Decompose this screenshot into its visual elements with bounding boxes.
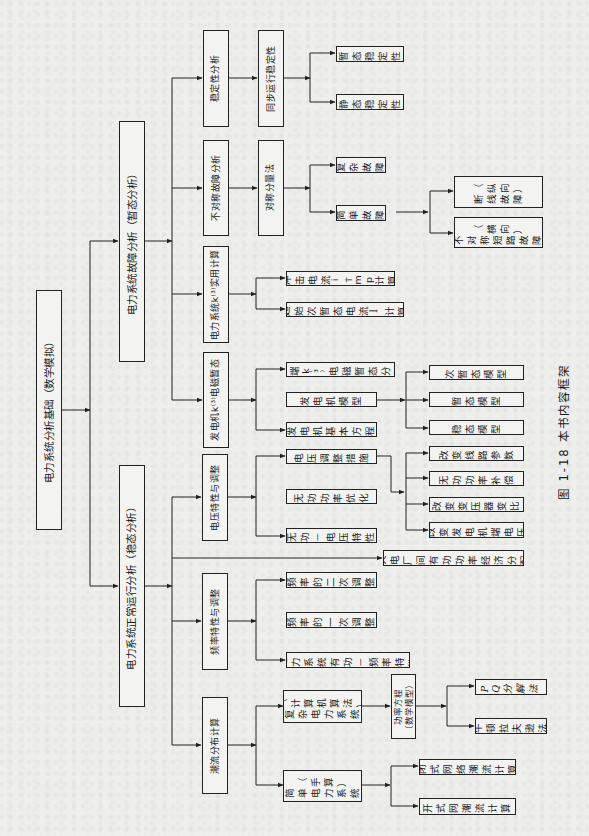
flow-equation-label: 功率方程（数学模型）	[393, 680, 414, 734]
complex-fault-box: 复杂故障	[336, 157, 386, 173]
simple-system-label-2: 简单电力系统	[284, 786, 362, 797]
active-frequency-label: 电力系统有功－频率特性	[286, 655, 410, 666]
change-line-params-label: 改变线路参数	[438, 448, 516, 459]
newton-method-label: 牛顿拉夫逊法	[475, 721, 547, 732]
asym-fault-analysis-box: 不对称故障分析	[203, 140, 229, 236]
practical-calc-box: 电力系统k⁽³⁾实用计算	[203, 246, 229, 343]
generator-equation-label: 发电机基本方程	[286, 424, 377, 435]
secondary-regulation-label: 频率的二次调整	[286, 575, 377, 586]
short-circuit-fault-label-1: （横向）	[473, 222, 525, 233]
root-box: 电力系统分析基础（数学模拟）	[36, 290, 62, 530]
pq-method-box: PQ分解法	[475, 679, 547, 695]
voltage-regulation-label: 电压特性与调整	[209, 464, 220, 531]
sync-stability-box: 同步运行稳定性	[258, 30, 284, 127]
asym-fault-analysis-label: 不对称故障分析	[210, 155, 221, 222]
voltage-regulation-box: 电压特性与调整	[202, 454, 228, 541]
flow-equation-line-2: （数学模型）	[404, 680, 414, 734]
open-line-fault-box: （纵向） 断线故障	[454, 176, 543, 208]
complex-fault-label: 复杂故障	[336, 160, 386, 171]
voltage-measures-box: 电压调整措施	[286, 449, 377, 464]
em-transient-label: 发电机k⁽³⁾电磁暂态	[210, 359, 221, 441]
impulse-current-label: 冲击电流 i_imp 计算	[286, 273, 395, 284]
flow-equation-box: 功率方程（数学模型）	[391, 674, 416, 739]
transient-stability-label: 暂态稳定性	[338, 49, 403, 60]
power-flow-box: 潮流分布计算	[202, 697, 228, 794]
steady-model-box: 稳态模型	[429, 420, 524, 435]
initial-current-label: 起始次暂态电流 I″ 计算	[286, 304, 404, 315]
frequency-regulation-box: 频率特性与调整	[202, 573, 228, 670]
change-line-params-box: 改变线路参数	[429, 446, 524, 461]
change-generator-voltage-box: 改变发电机端电压	[429, 522, 524, 538]
complex-system-label-1: （计算机算法）	[283, 696, 362, 707]
change-transformer-ratio-box: 改变变压器变比	[429, 497, 524, 512]
initial-current-box: 起始次暂态电流 I″ 计算	[286, 302, 404, 317]
transient-model-label: 暂态模型	[451, 394, 503, 405]
active-frequency-box: 电力系统有功－频率特性	[286, 652, 410, 668]
primary-regulation-label: 频率的一次调整	[286, 615, 377, 626]
static-stability-box: 静态稳定性	[336, 94, 404, 110]
stability-analysis-box: 稳定性分析	[203, 30, 229, 127]
em-transient-box: 发电机k⁽³⁾电磁暂态	[203, 352, 229, 448]
steady-model-label: 稳态模型	[451, 422, 503, 433]
complex-system-box: （计算机算法） 复杂电力系统	[283, 690, 362, 723]
symmetric-component-label: 对称分量法	[265, 164, 276, 212]
steady-analysis-label: 电力系统正常运行分析（稳态分析）	[125, 502, 138, 670]
closed-network-box: 闭式网络潮流计算	[419, 759, 516, 775]
symmetric-component-box: 对称分量法	[258, 140, 284, 236]
reactive-voltage-label: 无功－电压特性	[286, 530, 377, 541]
machine-end-transient-label: 机端 k⁽³⁾ 电磁暂态分析	[286, 364, 395, 375]
transient-analysis-box: 电力系统故障分析（暂态分析）	[119, 121, 145, 362]
change-generator-voltage-label: 改变发电机端电压	[429, 525, 524, 536]
pq-method-label: PQ分解法	[481, 682, 540, 693]
root-label: 电力系统分析基础（数学模拟）	[42, 337, 55, 484]
simple-system-box: （手算） 简单电力系统	[283, 770, 362, 802]
frequency-regulation-label: 频率特性与调整	[209, 588, 220, 655]
subtransient-model-label: 次暂态模型	[444, 367, 509, 378]
secondary-regulation-box: 频率的二次调整	[286, 572, 377, 588]
closed-network-label: 闭式网络潮流计算	[419, 762, 516, 773]
impulse-current-box: 冲击电流 i_imp 计算	[286, 271, 395, 286]
diagram-canvas: 电力系统分析基础（数学模拟） 电力系统故障分析（暂态分析） 电力系统正常运行分析…	[0, 0, 589, 836]
generator-model-label: 发电机模型	[299, 394, 364, 405]
practical-calc-label: 电力系统k⁽³⁾实用计算	[210, 249, 221, 340]
reactive-compensation-label: 无功功率补偿	[438, 473, 516, 484]
simple-fault-box: 简单故障	[336, 205, 386, 221]
reactive-compensation-box: 无功功率补偿	[429, 471, 524, 486]
short-circuit-fault-label-2: 不对称短路故障	[454, 233, 543, 244]
complex-system-label-2: 复杂电力系统	[284, 707, 362, 718]
reactive-voltage-box: 无功－电压特性	[286, 528, 377, 543]
figure-caption: 图 1-18 本书内容框架	[548, 362, 578, 502]
machine-end-transient-box: 机端 k⁽³⁾ 电磁暂态分析	[286, 362, 395, 377]
thermal-dispatch-label: 火电厂间有功功率经济分配	[383, 553, 524, 564]
power-flow-label: 潮流分布计算	[209, 717, 220, 774]
transient-analysis-label: 电力系统故障分析（暂态分析）	[125, 168, 138, 315]
short-circuit-fault-box: （横向） 不对称短路故障	[454, 217, 543, 248]
flow-equation-line-1: 功率方程	[393, 689, 403, 725]
static-stability-label: 静态稳定性	[338, 97, 403, 108]
newton-method-box: 牛顿拉夫逊法	[475, 718, 547, 734]
open-network-label: 开式网潮流计算	[422, 801, 513, 812]
reactive-optimization-label: 无功功率优化	[293, 491, 371, 502]
generator-equation-box: 发电机基本方程	[286, 422, 377, 437]
stability-analysis-label: 稳定性分析	[210, 55, 221, 103]
voltage-measures-label: 电压调整措施	[293, 451, 371, 462]
open-network-box: 开式网潮流计算	[419, 798, 516, 815]
generator-model-box: 发电机模型	[286, 392, 377, 407]
simple-fault-label: 简单故障	[336, 208, 386, 219]
primary-regulation-box: 频率的一次调整	[286, 612, 377, 628]
transient-stability-box: 暂态稳定性	[336, 46, 404, 62]
figure-caption-text: 图 1-18 本书内容框架	[555, 364, 571, 500]
transient-model-box: 暂态模型	[429, 392, 524, 407]
reactive-optimization-box: 无功功率优化	[286, 489, 377, 504]
change-transformer-ratio-label: 改变变压器变比	[431, 499, 522, 510]
thermal-dispatch-box: 火电厂间有功功率经济分配	[383, 550, 524, 566]
subtransient-model-box: 次暂态模型	[429, 365, 524, 380]
sync-stability-label: 同步运行稳定性	[265, 45, 276, 112]
steady-analysis-box: 电力系统正常运行分析（稳态分析）	[119, 465, 145, 707]
open-line-fault-label-2: 断线故障	[473, 192, 525, 203]
